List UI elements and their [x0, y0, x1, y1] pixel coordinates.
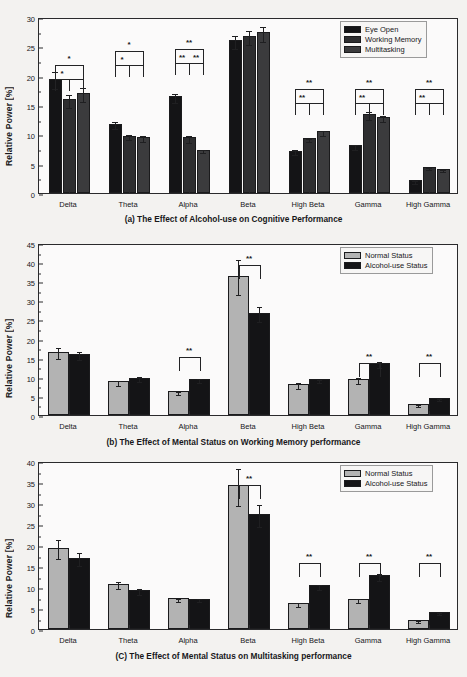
panel-a-caption: (a) The Effect of Alcohol-use on Cogniti…: [0, 214, 467, 224]
y-tick-label: 0: [31, 413, 39, 422]
legend-item[interactable]: Normal Status: [344, 251, 428, 261]
legend-item[interactable]: Alcohol-use Status: [344, 479, 428, 489]
x-axis-label: Alpha: [178, 200, 197, 209]
x-axis-label: Delta: [59, 422, 77, 431]
panel-a-legend: Eye OpenWorking MemoryMultitasking: [340, 21, 427, 58]
x-axis-label: Alpha: [178, 422, 197, 431]
y-tick-label: 35: [27, 480, 39, 489]
y-tick-label: 40: [27, 459, 39, 468]
x-axis-label: Gamma: [355, 636, 382, 645]
legend-swatch-icon: [344, 480, 361, 487]
y-tick-label: 5: [31, 161, 39, 170]
x-axis-label: Delta: [59, 636, 77, 645]
y-tick-label: 10: [27, 585, 39, 594]
x-axis-label: Beta: [240, 636, 255, 645]
y-tick-label: 40: [27, 260, 39, 269]
panel-b-y-axis-title: Relative Power [%]: [4, 278, 14, 398]
y-tick-label: 30: [27, 501, 39, 510]
significance-star: **: [426, 353, 432, 361]
legend-item[interactable]: Eye Open: [344, 25, 422, 35]
y-tick-label: 20: [27, 543, 39, 552]
y-tick-label: 5: [31, 393, 39, 402]
legend-item-label: Normal Status: [365, 469, 413, 478]
y-tick-label: 10: [27, 374, 39, 383]
y-tick-label: 0: [31, 191, 39, 200]
y-tick-label: 15: [27, 355, 39, 364]
y-tick-label: 25: [27, 522, 39, 531]
panel-a-caption-part-1: (a) The Effect of Alcohol-use on Cogniti…: [125, 214, 343, 224]
x-axis-label: Beta: [240, 422, 255, 431]
x-axis-label: High Gamma: [406, 200, 450, 209]
x-axis-label: High Beta: [292, 422, 325, 431]
x-axis-label: Beta: [240, 200, 255, 209]
legend-item-label: Working Memory: [365, 35, 422, 44]
panel-c-legend: Normal StatusAlcohol-use Status: [340, 465, 433, 492]
x-axis-label: Gamma: [355, 422, 382, 431]
legend-item[interactable]: Normal Status: [344, 469, 428, 479]
legend-item-label: Alcohol-use Status: [365, 261, 428, 270]
y-tick-label: 15: [27, 564, 39, 573]
x-axis-label: High Beta: [292, 636, 325, 645]
panel-c-y-axis-title: Relative Power [%]: [4, 498, 14, 618]
y-tick-label: 20: [27, 336, 39, 345]
panel-a: Relative Power [%] 051015202530*********…: [0, 0, 467, 230]
x-axis-label: Gamma: [355, 200, 382, 209]
legend-swatch-icon: [344, 26, 361, 33]
x-axis-label: Theta: [118, 422, 137, 431]
panel-c-caption: (C) The Effect of Mental Status on Multi…: [0, 651, 467, 661]
y-tick-label: 0: [31, 627, 39, 636]
y-tick-label: 10: [27, 132, 39, 141]
y-tick-label: 30: [27, 15, 39, 24]
significance-star: **: [426, 79, 432, 87]
x-axis-label: Theta: [118, 636, 137, 645]
panel-a-y-axis-title: Relative Power [%]: [4, 46, 14, 166]
y-tick-label: 15: [27, 103, 39, 112]
y-tick-label: 35: [27, 279, 39, 288]
panel-b-caption: (b) The Effect of Mental Status on Worki…: [0, 437, 467, 447]
legend-item[interactable]: Multitasking: [344, 45, 422, 55]
legend-item[interactable]: Working Memory: [344, 35, 422, 45]
y-tick-label: 45: [27, 241, 39, 250]
legend-item[interactable]: Alcohol-use Status: [344, 261, 428, 271]
x-axis-label: Delta: [59, 200, 77, 209]
y-tick-label: 20: [27, 73, 39, 82]
x-axis-label: Theta: [118, 200, 137, 209]
significance-star: **: [426, 553, 432, 561]
significance-star: **: [419, 94, 425, 102]
legend-swatch-icon: [344, 262, 361, 269]
y-tick-label: 30: [27, 298, 39, 307]
panel-c: Relative Power [%] 0510152025303540*****…: [0, 454, 467, 677]
x-axis-label: High Gamma: [406, 422, 450, 431]
legend-item-label: Multitasking: [365, 45, 405, 54]
x-axis-label: High Gamma: [406, 636, 450, 645]
legend-item-label: Eye Open: [365, 25, 398, 34]
legend-swatch-icon: [344, 252, 361, 259]
y-tick-label: 5: [31, 606, 39, 615]
y-tick-label: 25: [27, 44, 39, 53]
panel-b: Relative Power [%] 051015202530354045***…: [0, 230, 467, 454]
y-tick-label: 25: [27, 317, 39, 326]
legend-swatch-icon: [344, 46, 361, 53]
x-axis-label: High Beta: [292, 200, 325, 209]
x-axis-label: Alpha: [178, 636, 197, 645]
legend-swatch-icon: [344, 470, 361, 477]
legend-swatch-icon: [344, 36, 361, 43]
panel-b-legend: Normal StatusAlcohol-use Status: [340, 247, 433, 274]
legend-item-label: Alcohol-use Status: [365, 479, 428, 488]
legend-item-label: Normal Status: [365, 251, 413, 260]
